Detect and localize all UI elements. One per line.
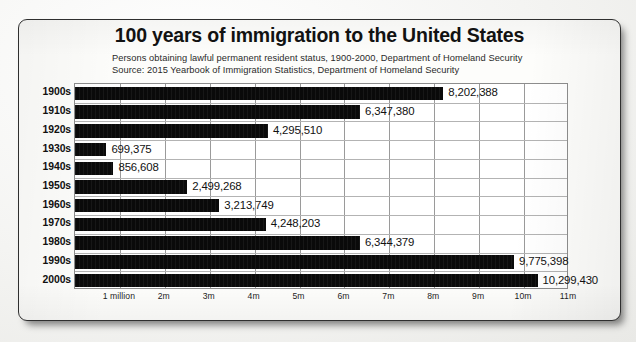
y-axis-label-1940s: 1940s — [19, 161, 71, 172]
chart-source-note: Source: 2015 Yearbook of Immigration Sta… — [112, 65, 459, 75]
y-axis-label-1970s: 1970s — [19, 217, 71, 228]
bar-value-label: 9,775,398 — [519, 255, 568, 267]
x-tick-label: 1 million — [103, 291, 135, 301]
y-axis-label-1990s: 1990s — [19, 255, 71, 266]
bar-2000s — [75, 274, 538, 288]
y-axis-labels: 1900s1910s1920s1930s1940s1950s1960s1970s… — [19, 83, 71, 289]
bar-1900s — [75, 87, 443, 101]
x-tick-label: 6m — [337, 291, 349, 301]
chart-sheet: 100 years of immigration to the United S… — [18, 19, 621, 321]
bar-value-label: 8,202,388 — [448, 86, 497, 98]
bar-1930s — [75, 143, 106, 157]
y-axis-label-1930s: 1930s — [19, 143, 71, 154]
bar-value-label: 4,295,510 — [273, 124, 322, 136]
row-gridline — [75, 140, 567, 141]
bar-value-label: 699,375 — [111, 143, 151, 155]
y-axis-label-1980s: 1980s — [19, 236, 71, 247]
x-tick-label: 2m — [158, 291, 170, 301]
bar-1980s — [75, 236, 360, 250]
bar-1920s — [75, 124, 268, 138]
row-gridline — [75, 215, 567, 216]
row-gridline — [75, 103, 567, 104]
bar-1910s — [75, 105, 360, 119]
x-tick-label: 3m — [203, 291, 215, 301]
y-axis-label-1950s: 1950s — [19, 180, 71, 191]
plot-area: 8,202,3886,347,3804,295,510699,375856,60… — [74, 83, 568, 289]
row-gridline — [75, 234, 567, 235]
bar-1940s — [75, 162, 113, 176]
bar-value-label: 6,344,379 — [365, 236, 414, 248]
bar-value-label: 4,248,203 — [271, 217, 320, 229]
chart-title: 100 years of immigration to the United S… — [19, 24, 620, 47]
bar-value-label: 3,213,749 — [224, 199, 273, 211]
row-gridline — [75, 253, 567, 254]
scanned-page-background: 100 years of immigration to the United S… — [0, 0, 636, 342]
x-tick-label: 9m — [472, 291, 484, 301]
bar-value-label: 856,608 — [118, 161, 158, 173]
x-tick-label: 10m — [515, 291, 532, 301]
chart-subtitle: Persons obtaining lawful permanent resid… — [112, 53, 522, 63]
y-axis-label-2000s: 2000s — [19, 274, 71, 285]
bar-value-label: 10,299,430 — [543, 274, 599, 286]
row-gridline — [75, 159, 567, 160]
y-axis-label-1920s: 1920s — [19, 124, 71, 135]
x-tick-label: 11m — [560, 291, 576, 301]
row-gridline — [75, 196, 567, 197]
y-axis-label-1910s: 1910s — [19, 105, 71, 116]
bar-1990s — [75, 255, 514, 269]
x-tick-label: 8m — [427, 291, 439, 301]
y-axis-label-1900s: 1900s — [19, 86, 71, 97]
y-axis-label-1960s: 1960s — [19, 199, 71, 210]
bar-value-label: 2,499,268 — [192, 180, 241, 192]
row-gridline — [75, 121, 567, 122]
bar-1950s — [75, 180, 187, 194]
bar-value-label: 6,347,380 — [365, 105, 414, 117]
x-tick-label: 7m — [382, 291, 394, 301]
x-tick-label: 5m — [292, 291, 304, 301]
row-gridline — [75, 178, 567, 179]
bar-1970s — [75, 218, 266, 232]
x-axis-labels: 1 million2m3m4m5m6m7m8m9m10m11m — [19, 291, 620, 305]
row-gridline — [75, 271, 567, 272]
x-tick-label: 4m — [248, 291, 260, 301]
bar-1960s — [75, 199, 219, 213]
